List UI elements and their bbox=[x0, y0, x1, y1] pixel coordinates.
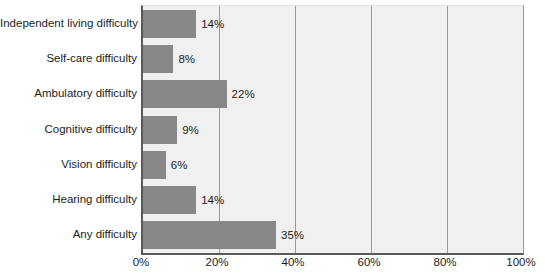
bar-row: 35% bbox=[143, 221, 523, 249]
category-label: Ambulatory difficulty bbox=[0, 87, 137, 99]
category-label: Any difficulty bbox=[0, 228, 137, 240]
bar-row: 22% bbox=[143, 80, 523, 108]
bar bbox=[143, 186, 196, 214]
bar bbox=[143, 221, 276, 249]
bar-row: 14% bbox=[143, 186, 523, 214]
bar bbox=[143, 80, 227, 108]
x-axis-tick: 20% bbox=[205, 256, 228, 268]
bar-value-label: 9% bbox=[177, 124, 199, 136]
bar-row: 8% bbox=[143, 45, 523, 73]
bar bbox=[143, 10, 196, 38]
x-axis-tick: 100% bbox=[506, 256, 535, 268]
bar bbox=[143, 151, 166, 179]
bar-row: 9% bbox=[143, 116, 523, 144]
x-axis-tick: 80% bbox=[433, 256, 456, 268]
bar-value-label: 14% bbox=[196, 194, 224, 206]
category-label: Self-care difficulty bbox=[0, 52, 137, 64]
x-axis-tick: 0% bbox=[133, 256, 150, 268]
bar-value-label: 8% bbox=[173, 53, 195, 65]
bar-value-label: 14% bbox=[196, 18, 224, 30]
category-label: Cognitive difficulty bbox=[0, 123, 137, 135]
bar bbox=[143, 116, 177, 144]
category-label: Vision difficulty bbox=[0, 158, 137, 170]
horizontal-bar-chart: Independent living difficulty Self-care … bbox=[0, 0, 545, 278]
category-label: Independent living difficulty bbox=[0, 17, 137, 29]
x-axis-tick: 60% bbox=[357, 256, 380, 268]
bar-value-label: 35% bbox=[276, 229, 304, 241]
bar bbox=[143, 45, 173, 73]
x-axis-tick-labels: 0% 20% 40% 60% 80% 100% bbox=[0, 254, 545, 278]
x-axis-tick: 40% bbox=[281, 256, 304, 268]
bar-row: 6% bbox=[143, 151, 523, 179]
bar-value-label: 6% bbox=[166, 159, 188, 171]
bar-value-label: 22% bbox=[227, 88, 255, 100]
plot-area: 14% 8% 22% 9% 6% 14% 35% bbox=[141, 5, 524, 255]
category-axis-labels: Independent living difficulty Self-care … bbox=[0, 0, 137, 252]
category-label: Hearing difficulty bbox=[0, 193, 137, 205]
bar-row: 14% bbox=[143, 10, 523, 38]
